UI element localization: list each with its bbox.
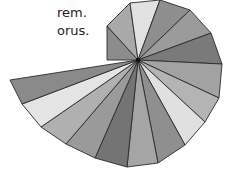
spiral-triangles — [10, 0, 222, 167]
spiral-center-point — [136, 58, 140, 62]
spiral-of-theodorus-diagram — [0, 0, 227, 174]
